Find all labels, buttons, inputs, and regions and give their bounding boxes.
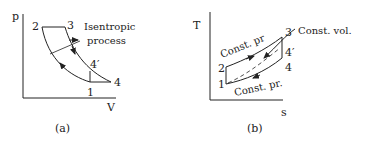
point-3-label: 3 xyxy=(285,26,292,39)
point-2-label: 2 xyxy=(218,62,225,75)
figure-b-ts-diagram: T s 1 2 3 4 4′ Const. pr Const. pr. Cons… xyxy=(193,12,352,135)
figure-a-pv-diagram: p V 2 3 4 1 4′ Isentropic process (a) xyxy=(12,10,136,135)
annotation-isentropic: Isentropic xyxy=(84,21,136,32)
cycle-diagrams: p V 2 3 4 1 4′ Isentropic process (a) T … xyxy=(0,0,369,149)
point-4prime-label: 4′ xyxy=(285,46,295,59)
process-1-2 xyxy=(42,27,90,82)
point-3-label: 3 xyxy=(67,19,74,32)
point-4prime-label: 4′ xyxy=(90,58,100,71)
point-1-label: 1 xyxy=(87,86,94,99)
pointer-line xyxy=(50,41,80,54)
point-1-label: 1 xyxy=(218,78,225,91)
point-4-label: 4 xyxy=(285,61,292,74)
y-axis-label: T xyxy=(193,19,201,32)
label-const-vol: Const. vol. xyxy=(298,25,352,36)
x-axis-label: s xyxy=(281,106,287,119)
label-const-pr-top: Const. pr xyxy=(219,32,267,60)
point-2-label: 2 xyxy=(32,20,39,33)
x-axis-label: V xyxy=(106,101,116,114)
annotation-process: process xyxy=(87,35,126,46)
y-axis-label: p xyxy=(12,10,19,23)
arrow-icon-1-2 xyxy=(60,63,64,68)
caption-a: (a) xyxy=(55,122,70,135)
caption-b: (b) xyxy=(247,122,263,135)
point-4-label: 4 xyxy=(114,76,121,89)
